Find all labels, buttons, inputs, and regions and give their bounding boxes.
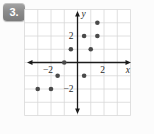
y-axis-tick-label: 2 xyxy=(69,31,74,41)
y-axis-label: y xyxy=(80,9,86,19)
data-point xyxy=(95,34,100,39)
data-point xyxy=(82,34,87,39)
data-point xyxy=(82,73,87,78)
data-point xyxy=(35,87,40,92)
y-axis-tick-label: −2 xyxy=(63,84,73,94)
data-point xyxy=(88,47,93,52)
scatter-plot-svg: −22−22xy xyxy=(0,0,154,134)
x-axis-label: x xyxy=(125,65,131,75)
x-axis-tick-label: 2 xyxy=(100,65,105,75)
data-point xyxy=(55,73,60,78)
data-point xyxy=(95,20,100,25)
worksheet-snippet: 3. −22−22xy xyxy=(0,0,154,134)
x-axis-tick-label: −2 xyxy=(43,65,53,75)
data-point xyxy=(62,60,67,65)
data-point xyxy=(69,47,74,52)
data-point xyxy=(49,87,54,92)
